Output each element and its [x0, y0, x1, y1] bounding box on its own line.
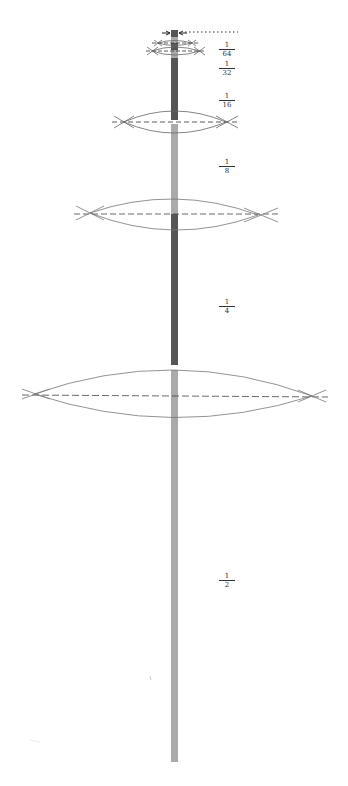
rod-segment-dark [171, 30, 178, 37]
rod-segment-light [171, 370, 178, 762]
label-1-8: 1 8 [219, 158, 235, 175]
stray-mark [150, 676, 151, 680]
rod-segment-dark [171, 43, 178, 50]
rod-segment-light [171, 124, 178, 214]
label-1-4: 1 4 [219, 298, 235, 315]
rod-segment-dark [171, 214, 178, 365]
rod-segment-light [171, 37, 178, 43]
label-1-2: 1 2 [219, 572, 235, 589]
stray-mark [30, 740, 40, 742]
label-1-32: 1 32 [219, 60, 235, 77]
label-1-16: 1 16 [219, 92, 235, 109]
label-1-64: 1 64 [219, 41, 235, 58]
subdivision-diagram [0, 0, 348, 786]
arrow-icon [162, 31, 170, 35]
